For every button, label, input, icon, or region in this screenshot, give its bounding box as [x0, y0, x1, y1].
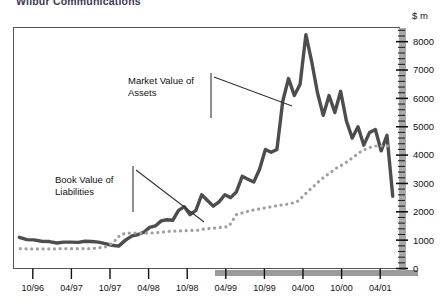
x-axis-tick-label: 10/97	[99, 283, 122, 293]
chart-plot-area: 010002000300040005000600070008000 10/960…	[0, 0, 442, 297]
axis-shadow-bar	[215, 270, 418, 276]
y-axis-tick-label: 8000	[413, 36, 434, 47]
y-axis-tick-label: 4000	[413, 149, 434, 160]
chart-container: Wilbur Communications $ m 01000200030004…	[0, 0, 442, 297]
plot-frame	[14, 28, 400, 269]
x-axis-tick-labels: 10/9604/9710/9704/9810/9804/9910/9904/00…	[22, 283, 392, 293]
y-axis-tick-label: 5000	[413, 121, 434, 132]
y-axis-tick-label: 2000	[413, 206, 434, 217]
y-axis-tick-label: 7000	[413, 64, 434, 75]
x-axis-tick-label: 04/97	[60, 283, 83, 293]
x-axis-tick-label: 10/99	[253, 283, 276, 293]
y-axis-tick-label: 6000	[413, 93, 434, 104]
y-axis-tick-label: 0	[413, 263, 418, 274]
x-axis-tick-label: 04/01	[369, 283, 392, 293]
x-axis-tick-label: 10/98	[176, 283, 199, 293]
x-axis-tick-label: 04/99	[215, 283, 238, 293]
y-axis-tick-label: 3000	[413, 178, 434, 189]
y-axis-tick-labels: 010002000300040005000600070008000	[413, 36, 434, 274]
x-axis-tick-label: 04/00	[292, 283, 315, 293]
x-axis-tick-label: 10/00	[330, 283, 353, 293]
x-axis-tick-label: 04/98	[137, 283, 160, 293]
y-axis-tick-label: 1000	[413, 235, 434, 246]
x-axis-tick-label: 10/96	[22, 283, 45, 293]
